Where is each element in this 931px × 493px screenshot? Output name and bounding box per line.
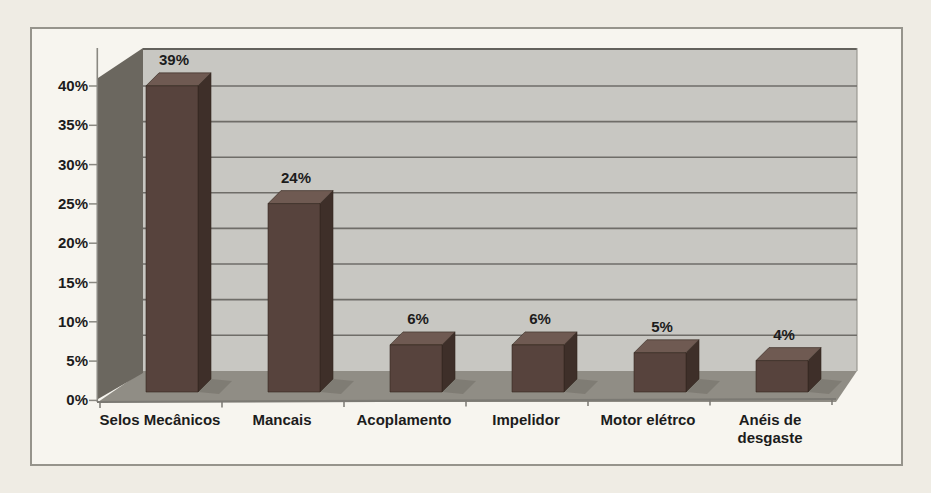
y-axis-label: 15% (38, 274, 88, 292)
bar-front-face (756, 361, 808, 392)
bar-front-face (634, 353, 686, 392)
category-label: Motor elétrco (582, 411, 714, 429)
bar-side-face (198, 73, 211, 392)
chart-walls (98, 48, 857, 402)
y-axis-label: 30% (38, 156, 88, 174)
y-axis-label: 35% (38, 116, 88, 134)
category-label-line: Motor elétrco (582, 411, 714, 429)
y-axis-label: 40% (38, 77, 88, 95)
category-label-line: Selos Mecânicos (94, 411, 226, 429)
y-axis-label: 20% (38, 234, 88, 252)
category-label-line: Acoplamento (338, 411, 470, 429)
category-label: Mancais (216, 411, 348, 429)
category-label-line: Impelidor (460, 411, 592, 429)
y-axis-label: 0% (38, 391, 88, 409)
bar-front-face (390, 345, 442, 392)
left-wall (98, 48, 143, 399)
category-label: Anéis dedesgaste (704, 411, 836, 447)
y-axis-label: 25% (38, 195, 88, 213)
y-axis-label: 10% (38, 313, 88, 331)
category-label-line: Mancais (216, 411, 348, 429)
bar-value-label: 24% (281, 169, 311, 187)
bar-value-label: 6% (529, 310, 551, 328)
bar-front-face (268, 204, 320, 392)
bar-value-label: 6% (407, 310, 429, 328)
category-label: Selos Mecânicos (94, 411, 226, 429)
bar-value-label: 5% (651, 318, 673, 336)
category-label: Acoplamento (338, 411, 470, 429)
bar-side-face (320, 191, 333, 392)
bar-value-label: 39% (159, 51, 189, 69)
back-wall (143, 48, 857, 371)
category-label: Impelidor (460, 411, 592, 429)
y-axis-label: 5% (38, 352, 88, 370)
bar-value-label: 4% (773, 326, 795, 344)
category-label-line: desgaste (704, 429, 836, 447)
chart-image: 40%35%30%25%20%15%10%5%0% 39%24%6%6%5%4%… (0, 0, 931, 493)
bar-front-face (146, 86, 198, 392)
category-label-line: Anéis de (704, 411, 836, 429)
bar-front-face (512, 345, 564, 392)
